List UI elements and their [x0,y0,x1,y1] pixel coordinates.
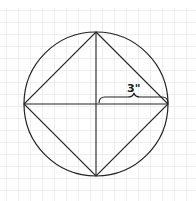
geometry-figure: 3" [0,0,196,201]
radius-label: 3" [127,82,140,95]
diagram-canvas: 3" [0,0,196,201]
